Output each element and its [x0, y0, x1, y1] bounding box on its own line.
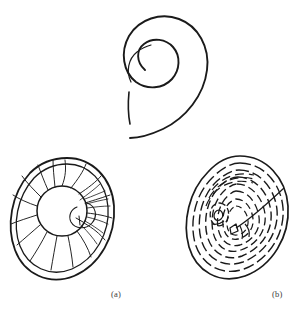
aperture-septum [87, 206, 110, 208]
upper-arc [212, 174, 254, 190]
septum-line [51, 236, 57, 270]
septum-line [53, 160, 55, 187]
figure-root: (a) (b) [0, 0, 300, 313]
septum-line [17, 225, 40, 245]
septum-line [22, 176, 41, 197]
septate-shell-svg [4, 148, 128, 288]
spiral-outline-svg [88, 2, 212, 142]
contour-ring [212, 184, 265, 251]
septum-line [11, 215, 37, 224]
core-mark-a [240, 226, 242, 239]
aperture-edge-path [128, 92, 130, 124]
septate-shell-panel [4, 148, 128, 288]
contour-shell-svg [180, 148, 300, 288]
aperture-septum [87, 217, 108, 224]
spiral-outline-panel [88, 2, 212, 142]
core-feature-path [230, 224, 238, 234]
caption-a: (a) [111, 289, 121, 299]
septum-line [30, 232, 47, 261]
caption-b: (b) [272, 289, 283, 299]
contour-shell-panel [180, 148, 300, 288]
outer-whorl-path [124, 16, 208, 138]
septum-line [68, 236, 73, 267]
septum-line [77, 231, 91, 257]
